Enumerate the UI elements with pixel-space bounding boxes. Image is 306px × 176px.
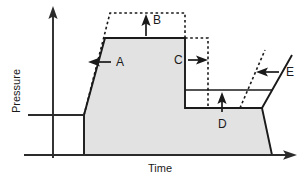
- x-axis-label: Time: [148, 162, 172, 174]
- y-axis-label: Pressure: [10, 69, 22, 113]
- annotation-c-label: C: [174, 53, 183, 67]
- annotation-b: B: [141, 13, 161, 36]
- annotation-b-label: B: [153, 13, 161, 27]
- pressure-time-diagram: A B C D E Pressure Time: [0, 0, 306, 176]
- diagram-canvas: A B C D E Pressure Time: [0, 0, 306, 176]
- annotation-e: E: [256, 65, 294, 79]
- annotation-e-label: E: [286, 65, 294, 79]
- annotation-d-label: D: [218, 117, 227, 131]
- annotation-a-label: A: [116, 55, 124, 69]
- annotation-c: C: [174, 53, 208, 67]
